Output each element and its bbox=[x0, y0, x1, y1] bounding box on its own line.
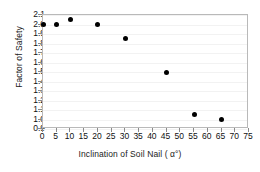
x-axis-tick-mark bbox=[248, 128, 249, 132]
data-point bbox=[219, 117, 224, 122]
gridline bbox=[43, 72, 247, 73]
x-axis-tick-mark bbox=[152, 128, 153, 132]
gridline bbox=[43, 129, 247, 130]
gridline bbox=[43, 25, 247, 26]
plot-area bbox=[42, 14, 248, 128]
data-point bbox=[164, 70, 169, 75]
gridline bbox=[43, 91, 247, 92]
data-point bbox=[68, 17, 73, 22]
gridline bbox=[43, 110, 247, 111]
x-axis-tick-label: 75 bbox=[238, 131, 258, 141]
x-axis-tick-mark bbox=[138, 128, 139, 132]
gridline bbox=[43, 44, 247, 45]
data-point bbox=[41, 22, 46, 27]
scatter-chart: Factor of Safety 0.91.01.11.21.31.41.51.… bbox=[0, 0, 260, 172]
gridline bbox=[43, 120, 247, 121]
data-point bbox=[95, 22, 100, 27]
gridline bbox=[43, 63, 247, 64]
gridline bbox=[43, 82, 247, 83]
data-point bbox=[192, 112, 197, 117]
data-point bbox=[123, 36, 128, 41]
x-axis-tick-mark bbox=[207, 128, 208, 132]
x-axis-tick-mark bbox=[97, 128, 98, 132]
x-axis-tick-mark bbox=[56, 128, 57, 132]
x-axis-tick-mark bbox=[124, 128, 125, 132]
gridline bbox=[43, 53, 247, 54]
x-axis-tick-mark bbox=[83, 128, 84, 132]
x-axis-tick-mark bbox=[111, 128, 112, 132]
data-point bbox=[54, 22, 59, 27]
gridline bbox=[43, 15, 247, 16]
x-axis-tick-mark bbox=[193, 128, 194, 132]
x-axis-tick-mark bbox=[234, 128, 235, 132]
x-axis-tick-mark bbox=[221, 128, 222, 132]
gridline bbox=[43, 101, 247, 102]
x-axis-tick-mark bbox=[166, 128, 167, 132]
x-axis-tick-mark bbox=[69, 128, 70, 132]
gridline bbox=[43, 34, 247, 35]
x-axis-title: Inclination of Soil Nail ( α°) bbox=[0, 149, 260, 159]
x-axis-tick-mark bbox=[179, 128, 180, 132]
x-axis-tick-mark bbox=[42, 128, 43, 132]
